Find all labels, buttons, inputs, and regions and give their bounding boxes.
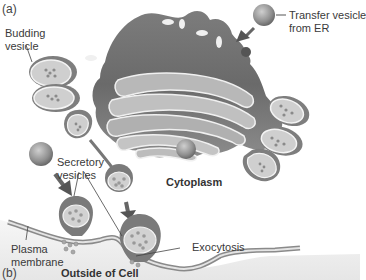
free-vesicle-cytoplasm	[176, 139, 196, 159]
label-budding-vesicle-line1: Budding	[5, 27, 45, 40]
label-plasma-membrane-line1: Plasma	[11, 243, 64, 256]
label-cytoplasm: Cytoplasm	[166, 176, 222, 189]
arrow-transfer	[236, 28, 254, 42]
label-transfer-vesicle-line2: from ER	[289, 22, 366, 35]
budding-vesicles-left	[29, 56, 92, 138]
label-plasma-membrane: Plasma membrane	[11, 243, 64, 269]
label-secretory-vesicles-line2: vesicles	[57, 169, 104, 182]
panel-label-a: (a)	[2, 2, 17, 16]
label-budding-vesicle: Budding vesicle	[5, 27, 45, 53]
label-outside-of-cell: Outside of Cell	[61, 267, 139, 280]
label-secretory-vesicles-line1: Secretory	[57, 156, 104, 169]
label-plasma-membrane-line2: membrane	[11, 256, 64, 269]
label-transfer-vesicle-line1: Transfer vesicle	[289, 9, 366, 22]
label-exocytosis: Exocytosis	[192, 241, 245, 254]
golgi-apparatus	[85, 11, 282, 161]
label-budding-vesicle-line2: vesicle	[5, 40, 45, 53]
secretory-vesicle-free	[29, 142, 53, 166]
transfer-vesicle	[253, 4, 286, 26]
secretory-vesicle-mid	[105, 164, 133, 192]
label-secretory-vesicles: Secretory vesicles	[57, 156, 104, 182]
label-transfer-vesicle: Transfer vesicle from ER	[289, 9, 366, 35]
